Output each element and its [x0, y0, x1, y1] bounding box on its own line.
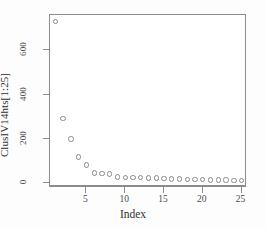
x-tick-label: 25	[236, 194, 246, 204]
y-tick-label: 600	[18, 42, 28, 56]
data-point	[92, 170, 97, 175]
data-point	[200, 177, 205, 182]
data-point	[169, 176, 174, 181]
y-axis-title: ClusIV14hts[1:25]	[0, 72, 10, 156]
data-point	[60, 116, 65, 121]
data-point	[123, 175, 128, 180]
data-point	[208, 177, 213, 182]
data-point	[239, 178, 244, 183]
x-tick-mark	[124, 187, 125, 193]
x-axis-title: Index	[0, 208, 266, 220]
data-point	[138, 175, 143, 180]
x-tick-label: 10	[119, 194, 129, 204]
x-axis-line	[49, 186, 246, 187]
data-point	[231, 178, 236, 183]
data-point	[223, 177, 228, 182]
x-tick-mark	[85, 187, 86, 193]
data-point	[53, 19, 58, 24]
data-point	[99, 171, 104, 176]
scree-plot-figure: ClusIV14hts[1:25] 0200400600 510152025 I…	[0, 0, 266, 229]
data-point	[161, 176, 166, 181]
x-tick-mark	[241, 187, 242, 193]
data-point	[216, 177, 221, 182]
x-tick-mark	[202, 187, 203, 193]
data-point	[154, 175, 159, 180]
data-point	[84, 162, 89, 167]
x-axis: 510152025 Index	[0, 186, 266, 229]
x-tick-label: 20	[197, 194, 207, 204]
x-tick-label: 5	[83, 194, 88, 204]
data-point	[146, 175, 151, 180]
y-tick-label: 400	[18, 87, 28, 101]
data-point	[185, 177, 190, 182]
plot-area	[49, 14, 246, 186]
data-point	[130, 175, 135, 180]
y-tick-label: 0	[18, 180, 28, 185]
data-point	[68, 136, 73, 141]
data-point	[115, 174, 120, 179]
data-point	[177, 176, 182, 181]
y-tick-label: 200	[18, 131, 28, 145]
x-tick-label: 15	[158, 194, 168, 204]
data-point-layer	[50, 15, 245, 185]
data-point	[107, 171, 112, 176]
data-point	[192, 177, 197, 182]
x-tick-mark	[163, 187, 164, 193]
data-point	[76, 154, 81, 159]
